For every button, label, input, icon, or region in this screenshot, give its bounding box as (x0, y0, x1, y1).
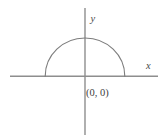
figure-container: y x (0, 0) (0, 0, 165, 139)
y-axis-label: y (90, 13, 96, 24)
coordinate-diagram: y x (0, 0) (0, 0, 165, 139)
x-axis-label: x (145, 60, 151, 71)
origin-label: (0, 0) (86, 87, 109, 99)
